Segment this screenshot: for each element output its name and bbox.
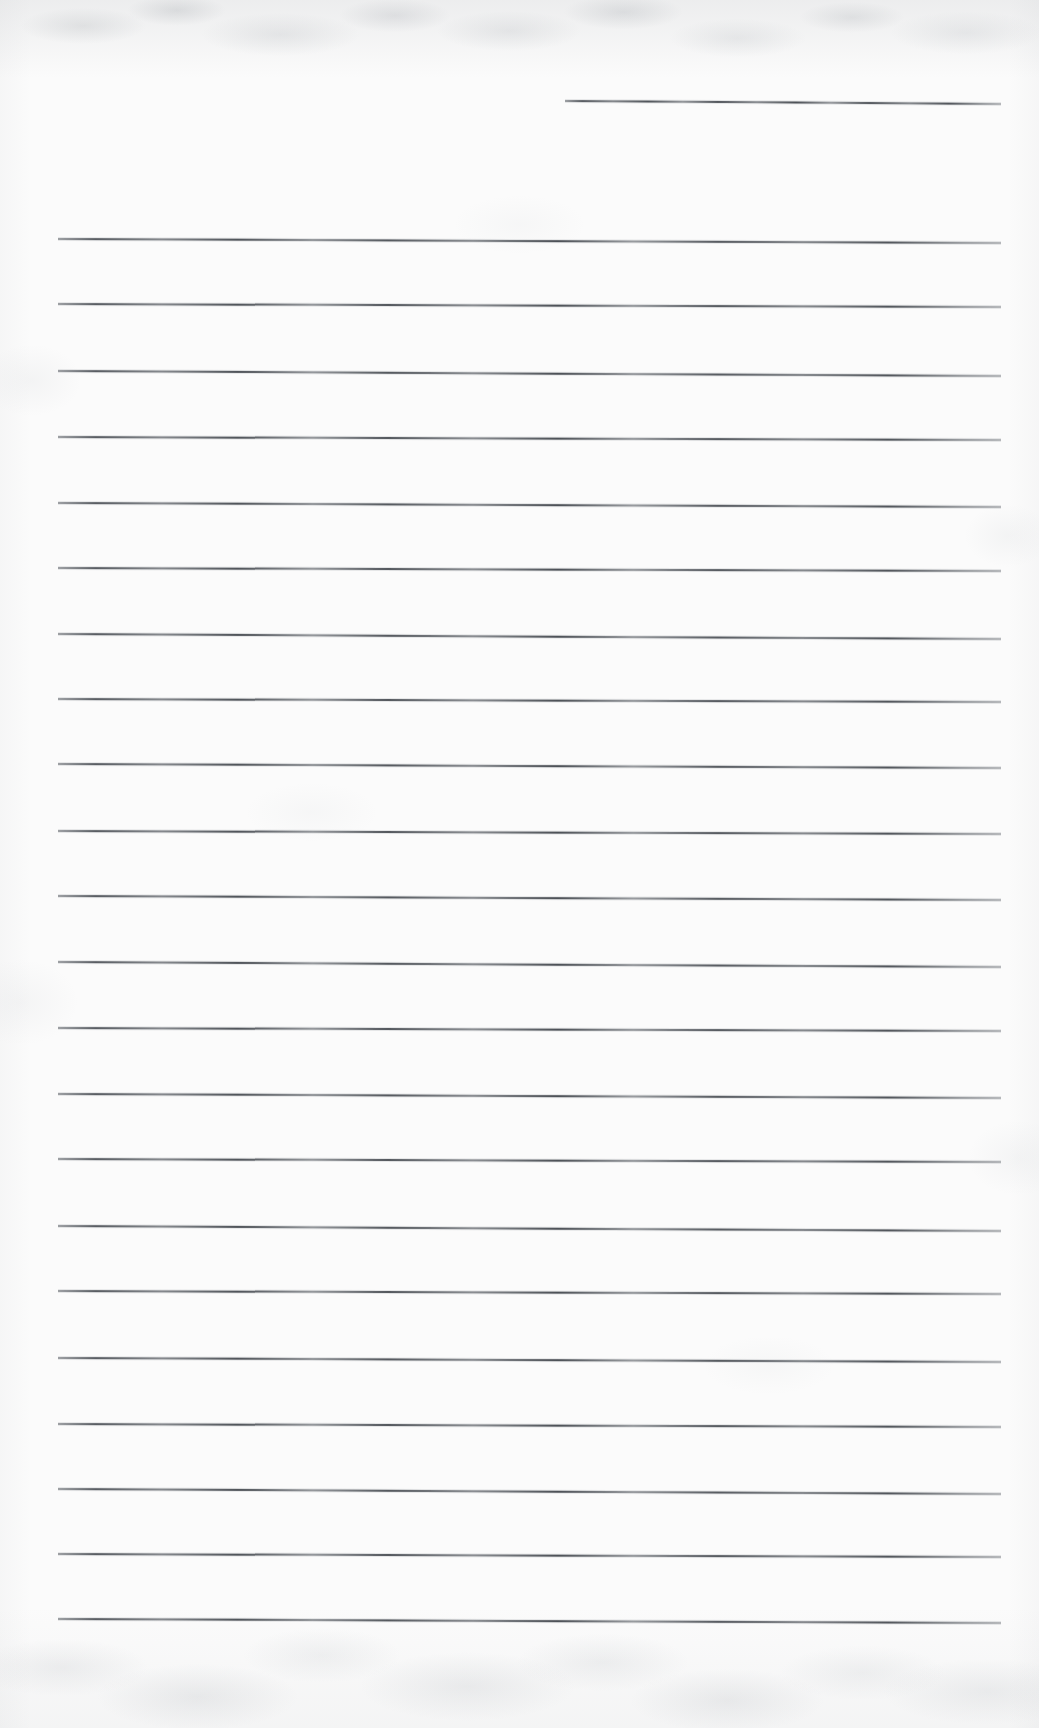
ruled-line-18 (58, 1357, 1001, 1363)
ruled-line-9 (58, 763, 1001, 769)
ruled-line-11 (58, 895, 1001, 901)
ruled-line-3 (58, 370, 1001, 377)
ruled-line-12 (58, 961, 1001, 968)
ruled-line-21 (58, 1553, 1001, 1558)
ruled-line-16 (58, 1225, 1001, 1232)
ruled-line-22 (58, 1618, 1001, 1624)
scanned-page (0, 0, 1039, 1728)
ruled-line-1 (58, 238, 1001, 244)
ruled-line-19 (58, 1423, 1001, 1428)
ruled-line-2 (58, 303, 1001, 308)
ruled-line-17 (58, 1290, 1001, 1295)
ruled-lines-layer (0, 0, 1039, 1728)
ruled-line-7 (58, 633, 1001, 640)
ruled-line-5 (58, 502, 1001, 508)
ruled-line-6 (58, 567, 1001, 572)
ruled-line-8 (58, 698, 1001, 703)
ruled-line-4 (58, 436, 1001, 441)
ruled-line-10 (58, 830, 1001, 835)
ruled-line-14 (58, 1093, 1001, 1099)
ruled-line-13 (58, 1027, 1001, 1032)
ruled-line-15 (58, 1158, 1001, 1163)
ruled-line-20 (58, 1488, 1001, 1495)
header-rule (565, 100, 1001, 105)
